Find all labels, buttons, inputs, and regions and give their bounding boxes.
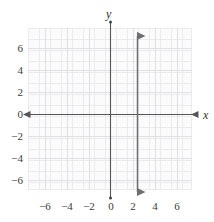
plot-canvas <box>0 0 214 222</box>
y-tick-label: −6 <box>0 175 23 186</box>
y-tick-label: 4 <box>5 65 23 76</box>
x-tick-label: 0 <box>108 201 114 212</box>
x-tick-label: 4 <box>152 201 158 212</box>
x-tick-label: −2 <box>83 201 95 212</box>
x-tick-label: 6 <box>174 201 180 212</box>
y-tick-label: 0 <box>5 109 23 120</box>
y-tick-label: 6 <box>5 43 23 54</box>
x-tick-label: −6 <box>39 201 51 212</box>
y-tick-label: −4 <box>0 153 23 164</box>
y-axis-label: y <box>106 8 111 20</box>
x-tick-label: 2 <box>130 201 136 212</box>
x-tick-label: −4 <box>61 201 73 212</box>
coordinate-graph: y x −6 −4 −2 0 2 4 6 6 4 2 0 −2 −4 −6 <box>0 0 214 222</box>
x-axis-label: x <box>203 109 208 121</box>
y-tick-label: 2 <box>5 87 23 98</box>
y-tick-label: −2 <box>0 131 23 142</box>
